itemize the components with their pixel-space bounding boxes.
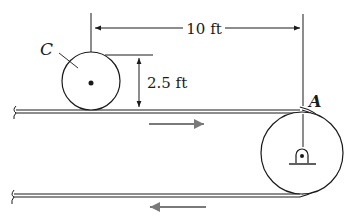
conveyor-diagram: 10 ft 2.5 ft C A	[0, 0, 355, 222]
cylinder-c	[59, 52, 120, 110]
dimension-10ft-label: 10 ft	[186, 20, 221, 38]
bottom-belt	[12, 190, 300, 204]
dimension-10ft: 10 ft	[95, 20, 300, 38]
break-mark-top	[14, 106, 16, 119]
label-a: A	[307, 92, 321, 111]
label-c: C	[40, 39, 53, 59]
dimension-2-5ft: 2.5 ft	[139, 58, 187, 107]
top-belt	[14, 106, 300, 119]
pulley-a	[261, 112, 343, 194]
dimension-2-5ft-label: 2.5 ft	[147, 74, 187, 92]
break-mark-bottom	[12, 190, 14, 204]
